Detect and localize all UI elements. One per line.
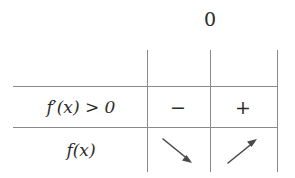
horizontal-rule-top <box>13 86 277 87</box>
increasing-arrow-icon <box>223 134 263 168</box>
vertical-divider-left <box>147 50 148 172</box>
horizontal-rule-middle <box>13 127 277 128</box>
row2-expression: (x) <box>73 140 96 160</box>
row1-expression: (x) > 0 <box>57 97 116 117</box>
derivative-sign-left: − <box>170 98 186 117</box>
derivative-sign-right: + <box>235 98 251 117</box>
vertical-divider-critical <box>210 50 211 172</box>
sign-chart: 0 f′(x) > 0 f(x) − + <box>0 0 295 178</box>
vertical-divider-right <box>277 50 278 172</box>
row-label-derivative: f′(x) > 0 <box>47 99 116 116</box>
decreasing-arrow-icon <box>158 134 198 168</box>
critical-value-label: 0 <box>204 10 216 29</box>
row-label-function: f(x) <box>66 142 95 159</box>
